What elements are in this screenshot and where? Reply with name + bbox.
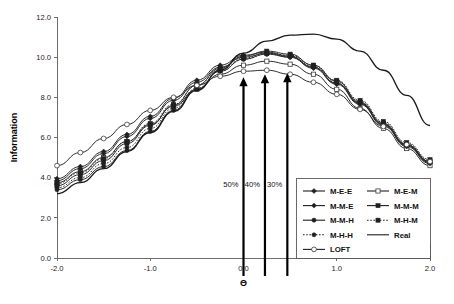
legend-label: LOFT [330, 245, 351, 254]
legend-label: M-M-E [330, 202, 353, 211]
data-point [311, 72, 315, 76]
data-point [241, 63, 245, 67]
data-point [148, 126, 152, 130]
arrow-annotation-40pct: 40% [245, 74, 269, 276]
x-tick-label: -2.0 [50, 264, 63, 273]
data-point [218, 74, 223, 79]
data-point [288, 54, 292, 58]
data-point [102, 162, 106, 166]
legend: M-E-EM-M-EM-M-HM-H-HLOFTM-E-MM-M-MM-H-MR… [296, 178, 430, 258]
y-tick-label: 0.0 [40, 254, 51, 263]
x-tick-label: 1.0 [331, 264, 342, 273]
legend-label: M-M-H [330, 216, 354, 225]
arrow-head [239, 77, 247, 86]
arrow-label: 30% [267, 180, 282, 189]
legend-marker [376, 189, 380, 193]
percent-arrow-annotations: 50%40%30% [223, 73, 291, 276]
data-point [288, 62, 292, 66]
data-point [78, 176, 82, 180]
legend-label: M-E-E [330, 187, 352, 196]
legend-label: M-H-M [394, 216, 418, 225]
data-point [171, 106, 175, 110]
x-axis-title: Θ [240, 278, 247, 288]
legend-marker [312, 233, 316, 237]
data-point [264, 68, 269, 73]
data-point [358, 99, 362, 103]
y-tick-label: 8.0 [40, 93, 51, 102]
data-point [241, 57, 245, 61]
data-point [311, 80, 316, 85]
data-point [194, 83, 199, 88]
legend-label: M-H-H [330, 231, 353, 240]
data-point [148, 108, 153, 113]
data-point [78, 171, 82, 175]
arrow-annotation-30pct: 30% [267, 73, 291, 276]
arrow-label: 40% [245, 180, 260, 189]
data-point [125, 122, 130, 127]
data-point [358, 107, 363, 112]
data-point [335, 79, 339, 83]
data-point [334, 92, 339, 97]
information-curve-chart: 0.02.04.06.08.010.012.0-2.0-1.00.01.02.0… [0, 0, 454, 304]
data-point [148, 121, 152, 125]
data-point [404, 142, 409, 147]
data-point [381, 124, 386, 129]
data-point [265, 59, 269, 63]
legend-label: M-E-M [394, 187, 417, 196]
legend-label: M-M-M [394, 202, 419, 211]
data-point [428, 159, 433, 164]
y-axis-title: Information [9, 113, 19, 163]
data-point [171, 95, 176, 100]
x-tick-label: -1.0 [144, 264, 157, 273]
arrow-annotation-50pct: 50% [223, 77, 247, 276]
data-point [55, 186, 59, 190]
data-point [78, 150, 83, 155]
data-point [125, 145, 129, 149]
x-tick-label: 2.0 [425, 264, 436, 273]
y-tick-label: 6.0 [40, 133, 51, 142]
data-point [55, 163, 60, 168]
y-tick-label: 12.0 [36, 13, 51, 22]
arrow-label: 50% [223, 180, 238, 189]
y-tick-label: 10.0 [36, 53, 51, 62]
y-tick-label: 2.0 [40, 214, 51, 223]
data-point [265, 52, 269, 56]
arrow-head [261, 74, 269, 83]
data-point [335, 87, 339, 91]
legend-marker [376, 218, 380, 222]
data-point [102, 156, 106, 160]
legend-marker [312, 218, 316, 222]
y-tick-label: 4.0 [40, 173, 51, 182]
data-point [241, 69, 246, 74]
plot-area: 0.02.04.06.08.010.012.0-2.0-1.00.01.02.0… [9, 13, 435, 288]
data-point [171, 102, 175, 106]
data-point [55, 182, 59, 186]
data-point [125, 139, 129, 143]
legend-label: Real [394, 231, 410, 240]
data-point [311, 64, 315, 68]
legend-marker [312, 247, 317, 252]
legend-marker [376, 204, 380, 208]
data-point [101, 136, 106, 141]
